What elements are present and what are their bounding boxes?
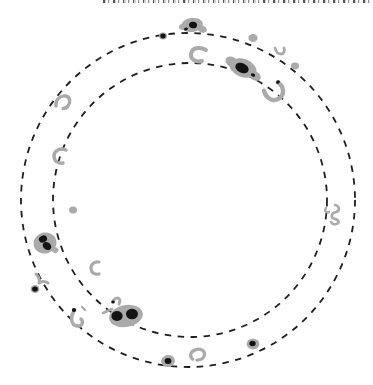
spot-dot-bottom-right-part — [249, 341, 255, 346]
spot-gray-dot-left — [69, 207, 77, 214]
spot-c-left-middle-part — [54, 149, 66, 163]
sunspot-diagram — [0, 0, 373, 385]
spot-gray-dot-right-upper-part — [291, 63, 299, 70]
spot-horseshoe-upper-right — [263, 80, 286, 104]
spot-hook-left-upper-part — [56, 96, 70, 109]
spot-fork-upper-right — [275, 48, 284, 54]
spot-large-group-bottom-part — [111, 301, 115, 304]
spot-gray-dot-upper-right — [248, 34, 257, 42]
spot-dark-dot-upper-left — [159, 32, 167, 39]
spot-hook-bottom-left-part — [72, 308, 76, 312]
spot-hook-bottom-left-part — [72, 311, 83, 326]
spot-hook-bottom-left-part — [82, 307, 85, 310]
spot-beak-top-center — [191, 48, 206, 62]
spot-ring-bottom-center-part — [190, 348, 206, 361]
spot-check-left-lower-part — [36, 274, 48, 283]
spot-gray-dot-right-upper — [291, 63, 299, 70]
spot-fork-upper-right-part — [275, 48, 284, 54]
spot-squiggle-right — [325, 205, 339, 224]
spot-hook-left-upper — [56, 96, 70, 109]
spot-dot-group-bottom-center-part — [165, 358, 172, 364]
spot-check-left-lower — [36, 274, 48, 283]
spot-dark-dot-upper-left-part — [160, 34, 165, 39]
spot-gray-dot-left-part — [69, 207, 77, 214]
spot-crescent-lower-left-part — [91, 262, 99, 274]
spot-dot-bottom-right — [247, 339, 260, 350]
spot-top-center-group — [179, 17, 208, 34]
figure-page — [0, 0, 373, 385]
spot-large-group-bottom-part — [111, 311, 122, 321]
spot-crescent-lower-left — [91, 262, 99, 274]
inner-dashed-circle — [53, 63, 327, 337]
spot-large-group-bottom — [103, 298, 145, 330]
spot-squiggle-right-part — [331, 205, 339, 224]
spot-large-group-bottom-part — [126, 309, 138, 319]
spot-large-group-left — [31, 230, 59, 256]
spot-large-group-upper-right — [223, 54, 262, 82]
spot-gray-dot-upper-right-part — [248, 34, 257, 42]
spot-horseshoe-upper-right-part — [263, 81, 286, 104]
spot-squiggle-right-part — [325, 208, 329, 212]
spot-c-left-middle — [54, 149, 66, 163]
spot-hook-bottom-left — [72, 307, 85, 326]
spot-ring-bottom-center — [190, 348, 206, 361]
spot-dark-dot-left-lower — [31, 285, 40, 293]
spot-beak-top-center-part — [191, 48, 206, 62]
spot-dark-dot-left-lower-part — [32, 286, 38, 291]
